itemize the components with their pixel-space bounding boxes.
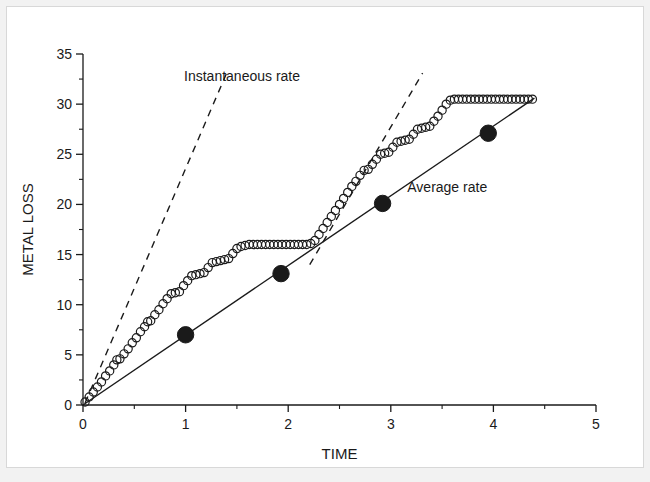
average-rate-label: Average rate (407, 179, 487, 195)
open-circle-data-point (331, 206, 339, 214)
metal-loss-vs-time-chart: 05101520253035012345 Instantaneous rateA… (7, 7, 643, 467)
y-axis-tick-label: 30 (56, 96, 72, 112)
average-rate-data-point (177, 327, 193, 343)
y-axis-tick-label: 20 (56, 196, 72, 212)
average-rate-line (83, 98, 534, 405)
y-axis-tick-label: 25 (56, 146, 72, 162)
open-circle-data-point (438, 106, 446, 114)
open-circle-data-point (315, 230, 323, 238)
y-axis-tick-label: 15 (56, 247, 72, 263)
average-rate-data-point (273, 265, 289, 281)
open-circle-data-point (323, 218, 331, 226)
x-axis-tick-label: 5 (592, 416, 600, 432)
x-axis-tick-label: 1 (182, 416, 190, 432)
figure-container: 05101520253035012345 Instantaneous rateA… (0, 0, 650, 482)
x-axis-title: TIME (322, 445, 358, 462)
average-rate-data-point (480, 125, 496, 141)
instantaneous-rate-label: Instantaneous rate (184, 68, 300, 84)
y-axis-tick-label: 35 (56, 46, 72, 62)
y-axis-title: METAL LOSS (19, 183, 36, 276)
instantaneous-rate-tangent-line (310, 73, 423, 265)
y-axis-tick-label: 10 (56, 297, 72, 313)
chart-figure: 05101520253035012345 Instantaneous rateA… (6, 6, 644, 468)
chart-annotations: Instantaneous rateAverage rate (184, 68, 487, 195)
x-axis-tick-label: 4 (490, 416, 498, 432)
data-series (81, 73, 537, 406)
x-axis-tick-label: 0 (79, 416, 87, 432)
open-circle-data-point (340, 194, 348, 202)
x-axis-tick-label: 3 (387, 416, 395, 432)
x-axis-tick-label: 2 (284, 416, 292, 432)
y-axis-tick-label: 5 (64, 347, 72, 363)
instantaneous-rate-tangent-line (85, 73, 227, 403)
y-axis-tick-label: 0 (64, 397, 72, 413)
average-rate-data-point (374, 195, 390, 211)
open-circle-data-point (319, 224, 327, 232)
open-circle-data-point (335, 200, 343, 208)
open-circle-data-point (327, 212, 335, 220)
